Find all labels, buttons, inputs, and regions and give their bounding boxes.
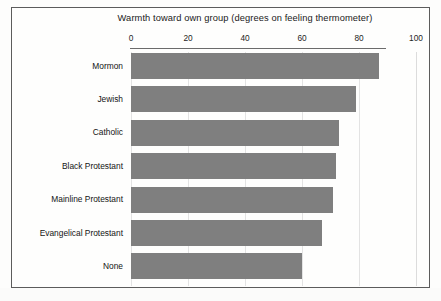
x-tick-label-40: 40	[240, 33, 249, 43]
category-label: None	[3, 261, 123, 271]
bar-row: Evangelical Protestant	[131, 220, 416, 253]
chart-figure: Warmth toward own group (degrees on feel…	[0, 0, 441, 301]
x-tick-label-0: 0	[129, 33, 134, 43]
bar	[131, 187, 333, 213]
x-tick-label-20: 20	[183, 33, 192, 43]
bar	[131, 53, 379, 79]
chart-title: Warmth toward own group (degrees on feel…	[60, 13, 430, 23]
category-label: Mormon	[3, 61, 123, 71]
x-tick-label-60: 60	[297, 33, 306, 43]
bar	[131, 120, 339, 146]
bar-row: Catholic	[131, 120, 416, 153]
bar-row: Mormon	[131, 53, 416, 86]
category-label: Jewish	[3, 94, 123, 104]
category-label: Mainline Protestant	[3, 194, 123, 204]
x-tick-label-100: 100	[409, 33, 423, 43]
plot-area: MormonJewishCatholicBlack ProtestantMain…	[131, 52, 416, 286]
bar	[131, 253, 302, 279]
category-label: Catholic	[3, 127, 123, 137]
bar	[131, 220, 322, 246]
bar	[131, 153, 336, 179]
x-tick-label-80: 80	[354, 33, 363, 43]
bar-row: Jewish	[131, 86, 416, 119]
bar-row: Black Protestant	[131, 153, 416, 186]
gridline-100	[416, 52, 417, 286]
bar	[131, 86, 356, 112]
category-label: Evangelical Protestant	[3, 228, 123, 238]
category-label: Black Protestant	[3, 161, 123, 171]
bar-row: None	[131, 253, 416, 286]
bar-row: Mainline Protestant	[131, 187, 416, 220]
page-shadow	[0, 288, 441, 301]
x-axis-line	[130, 48, 386, 49]
